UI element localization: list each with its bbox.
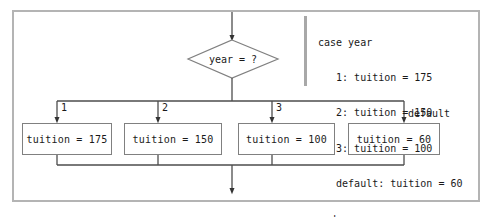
pseudocode-block: case year 1: tuition = 175 2: tuition = … xyxy=(318,13,463,217)
code-vertical-rule xyxy=(304,16,307,86)
decision-label: year = ? xyxy=(188,50,278,68)
code-line-1: 1: tuition = 175 xyxy=(318,72,463,84)
flowchart-figure: year = ? 1 2 3 default tuition = 175 tui… xyxy=(0,0,494,217)
code-line-5: endcase xyxy=(318,214,463,217)
process-box-case-2: tuition = 150 xyxy=(124,123,222,155)
code-line-0: case year xyxy=(318,37,463,49)
code-line-2: 2: tuition = 150 xyxy=(318,107,463,119)
code-line-3: 3: tuition = 100 xyxy=(318,143,463,155)
process-box-case-1: tuition = 175 xyxy=(22,123,112,155)
branch-label-3: 3 xyxy=(276,102,282,113)
branch-label-1: 1 xyxy=(61,102,67,113)
code-line-4: default: tuition = 60 xyxy=(318,178,463,190)
branch-label-2: 2 xyxy=(162,102,168,113)
